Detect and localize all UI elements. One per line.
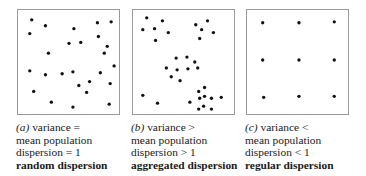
organism-dot: [99, 71, 102, 74]
organism-dot: [261, 21, 264, 24]
organism-dot: [161, 19, 164, 22]
organism-dot: [197, 90, 200, 93]
panel-random-dispersion: [17, 9, 120, 115]
organism-dot: [154, 39, 157, 42]
caption-line-variance: variance =: [29, 121, 80, 133]
organism-dot: [79, 41, 82, 44]
caption-line-mean: mean population: [16, 134, 107, 147]
dot-plot-random: [18, 10, 119, 114]
organism-dot: [109, 20, 112, 23]
organism-dot: [153, 27, 156, 30]
organism-dot: [67, 42, 70, 45]
organism-dot: [96, 21, 99, 24]
organism-dot: [71, 105, 74, 108]
organism-dot: [72, 27, 75, 30]
organism-dot: [297, 21, 300, 24]
organism-dot: [47, 52, 50, 55]
organism-dot: [186, 67, 189, 70]
organism-dot: [108, 102, 111, 105]
caption-line-variance: variance >: [144, 121, 195, 133]
caption-line-dispersion: dispersion = 1: [16, 146, 107, 159]
organism-dot: [333, 20, 336, 23]
organism-dot: [210, 97, 213, 100]
organism-dot: [333, 95, 336, 98]
organism-dot: [60, 72, 63, 75]
organism-dot: [165, 66, 168, 69]
organism-dot: [167, 31, 170, 34]
caption-aggregated: (b) variance > mean population dispersio…: [131, 121, 237, 171]
caption-random: (a) variance = mean population dispersio…: [16, 121, 107, 171]
caption-label: (b): [131, 121, 144, 133]
organism-dot: [198, 97, 201, 100]
organism-dot: [200, 28, 203, 31]
organism-dot: [71, 70, 74, 73]
organism-dot: [202, 104, 205, 107]
organism-dot: [50, 101, 53, 104]
caption-line-variance: variance <: [258, 121, 309, 133]
caption-line-mean: mean population: [245, 134, 334, 147]
organism-dot: [175, 68, 178, 71]
caption-label: (a): [16, 121, 29, 133]
caption-line-type: regular dispersion: [245, 159, 334, 172]
organism-dot: [188, 101, 191, 104]
caption-line-mean: mean population: [131, 134, 237, 147]
organism-dot: [185, 55, 188, 58]
organism-dot: [156, 102, 159, 105]
caption-regular: (c) variance < mean population dispersio…: [245, 121, 334, 171]
organism-dot: [109, 82, 112, 85]
caption-line-dispersion: dispersion < 1: [245, 146, 334, 159]
organism-dot: [206, 19, 209, 22]
organism-dot: [261, 58, 264, 61]
organism-dot: [106, 45, 109, 48]
organism-dot: [174, 56, 177, 59]
organism-dot: [203, 95, 206, 98]
panel-regular-dispersion: [246, 9, 349, 115]
panel-aggregated-dispersion: [132, 9, 235, 115]
organism-dot: [178, 79, 181, 82]
organism-dot: [333, 58, 336, 61]
organism-dot: [77, 84, 80, 87]
organism-dot: [28, 69, 31, 72]
caption-line-type: random dispersion: [16, 159, 107, 172]
organism-dot: [297, 58, 300, 61]
organism-dot: [145, 16, 148, 19]
caption-line-dispersion: dispersion > 1: [131, 146, 237, 159]
organism-dot: [141, 94, 144, 97]
organism-dot: [30, 18, 33, 21]
organism-dot: [212, 31, 215, 34]
organism-dot: [85, 91, 88, 94]
organism-dot: [194, 23, 197, 26]
organism-dot: [103, 52, 106, 55]
dot-plot-regular: [247, 10, 348, 114]
organism-dot: [196, 66, 199, 69]
organism-dot: [141, 28, 144, 31]
organism-dot: [112, 64, 115, 67]
organism-dot: [198, 37, 201, 40]
dot-plot-aggregated: [133, 10, 234, 114]
organism-dot: [262, 96, 265, 99]
organism-dot: [44, 24, 47, 27]
organism-dot: [203, 86, 206, 89]
organism-dot: [32, 90, 35, 93]
organism-dot: [197, 107, 200, 110]
organism-dot: [297, 95, 300, 98]
organism-dot: [210, 107, 213, 110]
organism-dot: [44, 73, 47, 76]
caption-label: (c): [245, 121, 258, 133]
organism-dot: [220, 96, 223, 99]
organism-dot: [88, 80, 91, 83]
organism-dot: [170, 75, 173, 78]
organism-dot: [193, 60, 196, 63]
caption-line-type: aggregated dispersion: [131, 159, 237, 172]
organism-dot: [28, 32, 31, 35]
organism-dot: [97, 35, 100, 38]
